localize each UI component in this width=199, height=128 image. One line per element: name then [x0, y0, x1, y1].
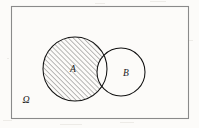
omega-universal-set-label: Ω	[22, 94, 29, 105]
set-difference-shaded-region	[0, 0, 199, 128]
venn-diagram-canvas: A B Ω	[0, 0, 199, 128]
set-b-label: B	[123, 68, 129, 78]
set-a-label: A	[69, 64, 76, 74]
venn-diagram-figure: A B Ω	[0, 0, 199, 128]
